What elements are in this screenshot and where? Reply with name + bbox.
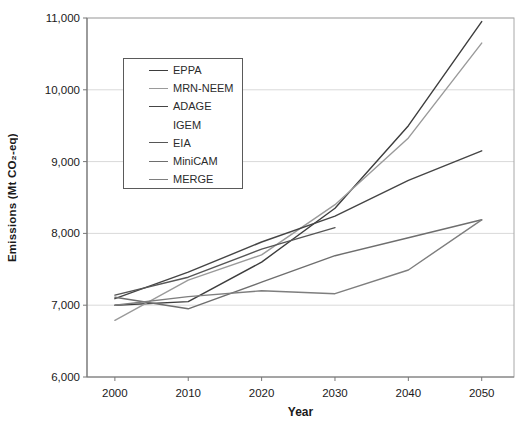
legend-item-adage: ADAGE — [124, 97, 242, 115]
x-axis-title: Year — [87, 405, 514, 419]
legend-label: MiniCAM — [173, 155, 218, 167]
emissions-chart-figure: 6,0007,0008,0009,00010,00011,00020002010… — [0, 0, 524, 426]
legend-line-sample — [149, 142, 168, 143]
legend-label: MERGE — [173, 173, 213, 185]
legend-line-sample — [149, 70, 168, 71]
x-tick-label: 2050 — [469, 387, 495, 399]
y-tick-label: 9,000 — [51, 156, 80, 168]
series-line-eia — [115, 228, 335, 295]
x-tick-label: 2000 — [102, 387, 128, 399]
y-axis-title: Emissions (Mt CO₂-eq) — [6, 18, 22, 377]
legend-line-sample — [149, 179, 168, 180]
legend-label: EIA — [173, 137, 191, 149]
x-tick-label: 2030 — [322, 387, 348, 399]
legend-item-merge: MERGE — [124, 170, 242, 188]
legend-line-sample — [149, 88, 168, 89]
legend: EPPAMRN-NEEMADAGEIGEMEIAMiniCAMMERGE — [123, 58, 243, 189]
legend-item-mrn-neem: MRN-NEEM — [124, 79, 242, 97]
line-chart-canvas: 6,0007,0008,0009,00010,00011,00020002010… — [0, 0, 524, 426]
x-tick-label: 2010 — [175, 387, 201, 399]
legend-label: IGEM — [173, 119, 201, 131]
legend-item-eppa: EPPA — [124, 61, 242, 79]
y-tick-label: 10,000 — [45, 84, 80, 96]
legend-item-minicam: MiniCAM — [124, 152, 242, 170]
legend-label: EPPA — [173, 64, 202, 76]
y-tick-label: 7,000 — [51, 299, 80, 311]
y-tick-label: 11,000 — [46, 12, 80, 24]
legend-line-sample — [149, 106, 168, 107]
legend-item-eia: EIA — [124, 134, 242, 152]
legend-label: MRN-NEEM — [173, 82, 234, 94]
legend-label: ADAGE — [173, 100, 212, 112]
legend-item-igem: IGEM — [124, 116, 242, 134]
x-tick-label: 2020 — [249, 387, 275, 399]
y-tick-label: 6,000 — [51, 371, 80, 383]
legend-line-sample — [149, 161, 168, 162]
y-tick-label: 8,000 — [51, 227, 80, 239]
x-tick-label: 2040 — [396, 387, 422, 399]
